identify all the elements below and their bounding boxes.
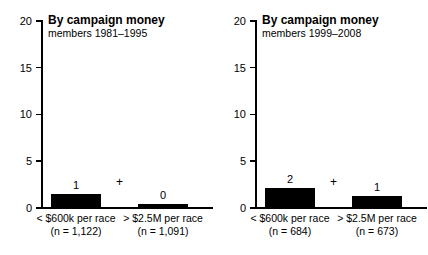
significance-plus-marker-right: + <box>330 176 337 188</box>
y-tick-20-left: 20 <box>36 20 41 22</box>
y-tick-label-20-left: 20 <box>20 15 32 26</box>
x-axis-line-left <box>41 207 213 209</box>
y-tick-label-10-left: 10 <box>20 109 32 120</box>
bar-value-right-1: 1 <box>374 182 380 193</box>
chart-panel-right: By campaign money members 1999–2008 20 1… <box>214 0 428 255</box>
bar-left-category-0: 1 <box>51 194 101 207</box>
bar-value-right-0: 2 <box>287 174 293 185</box>
y-tick-label-5-right: 5 <box>240 156 246 167</box>
y-tick-0-left: 0 <box>36 207 41 209</box>
x-category-name-left-1: > $2.5M per race <box>123 212 203 224</box>
y-tick-10-left: 10 <box>36 114 41 116</box>
x-category-label-left-1: > $2.5M per race (n = 1,091) <box>103 212 223 238</box>
panel-right-plot-area: 20 15 10 5 0 2 1 + < $600k per race <box>255 20 427 207</box>
y-tick-label-10-right: 10 <box>234 109 246 120</box>
y-tick-label-5-left: 5 <box>26 156 32 167</box>
bar-value-left-0: 1 <box>73 180 79 191</box>
panel-left-plot-area: 20 15 10 5 0 1 0 + <box>41 20 213 207</box>
y-tick-15-left: 15 <box>36 67 41 69</box>
y-tick-15-right: 15 <box>250 67 255 69</box>
x-category-count-right-1: (n = 673) <box>317 225 428 238</box>
y-tick-5-left: 5 <box>36 160 41 162</box>
y-tick-5-right: 5 <box>250 160 255 162</box>
bar-left-category-1: 0 <box>138 204 188 207</box>
x-category-count-left-1: (n = 1,091) <box>103 225 223 238</box>
y-tick-20-right: 20 <box>250 20 255 22</box>
y-tick-label-15-left: 15 <box>20 62 32 73</box>
x-category-name-right-1: > $2.5M per race <box>337 212 417 224</box>
bar-right-category-1: 1 <box>352 196 402 207</box>
chart-panel-left: By campaign money members 1981–1995 20 1… <box>0 0 214 255</box>
y-axis-line-right <box>255 20 257 207</box>
y-tick-10-right: 10 <box>250 114 255 116</box>
bar-value-left-1: 0 <box>160 190 166 201</box>
x-category-label-right-1: > $2.5M per race (n = 673) <box>317 212 428 238</box>
y-tick-label-20-right: 20 <box>234 15 246 26</box>
y-axis-line-left <box>41 20 43 207</box>
significance-plus-marker-left: + <box>116 176 123 188</box>
bar-chart-figure: By campaign money members 1981–1995 20 1… <box>0 0 428 255</box>
y-tick-0-right: 0 <box>250 207 255 209</box>
x-axis-line-right <box>255 207 427 209</box>
bar-right-category-0: 2 <box>265 188 315 207</box>
y-tick-label-15-right: 15 <box>234 62 246 73</box>
